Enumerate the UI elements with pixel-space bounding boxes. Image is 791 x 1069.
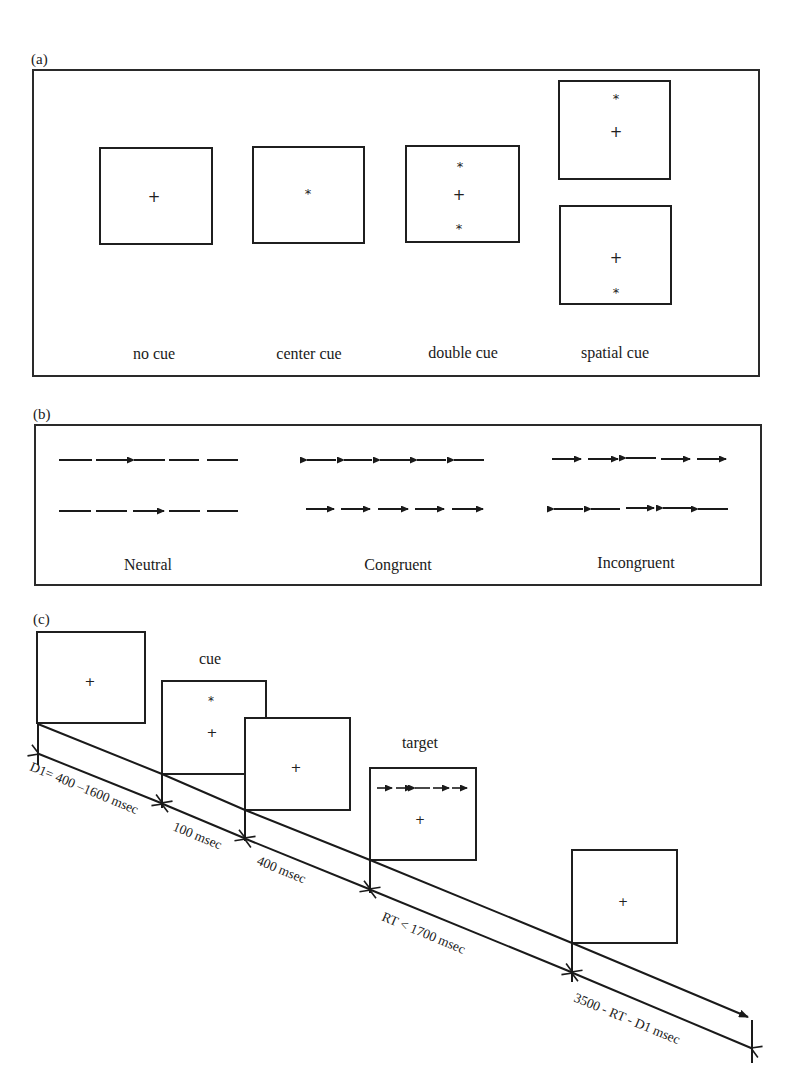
double-cue-condition: * + * double cue — [406, 146, 519, 361]
fixation-cross: + — [148, 188, 161, 206]
panel-b-flanker-conditions: (b) — [33, 406, 761, 585]
spatial-cue-asterisk: * — [613, 285, 620, 300]
panel-c-trial-timeline: (c) + cue * + + target + + — [28, 611, 752, 1063]
center-cue-asterisk: * — [305, 186, 312, 201]
fixation-cross: + — [453, 186, 466, 204]
incongruent-left-row — [552, 458, 726, 459]
cue-stage-label: cue — [199, 650, 221, 667]
duration-cue-label: 100 msec — [171, 819, 224, 853]
duration-rt-label: RT < 1700 msec — [380, 909, 468, 957]
duration-post-cue-label: 400 msec — [255, 853, 308, 887]
incongruent-label: Incongruent — [597, 554, 675, 572]
center-cue-condition: * center cue — [253, 147, 364, 362]
neutral-label: Neutral — [124, 556, 173, 573]
duration-remaining-label: 3500 - RT - D1 msec — [572, 990, 682, 1047]
spatial-cue-asterisk: * — [613, 91, 620, 106]
fixation-cross: + — [618, 895, 628, 909]
spatial-cue-label: spatial cue — [581, 344, 649, 362]
fixation-cross: + — [610, 123, 623, 141]
double-cue-top-asterisk: * — [457, 159, 464, 174]
attention-network-test-figure: (a) + no cue * center cue * + * double c… — [0, 0, 791, 1069]
fixation-cross: + — [415, 813, 425, 827]
incongruent-right-row — [554, 508, 728, 509]
no-cue-label: no cue — [133, 345, 175, 362]
double-cue-label: double cue — [428, 344, 498, 361]
no-cue-condition: + no cue — [100, 148, 212, 362]
cue-asterisk: * — [208, 694, 214, 708]
panel-c-label: (c) — [33, 611, 50, 628]
fixation-cross: + — [610, 249, 623, 267]
panel-b-label: (b) — [33, 406, 51, 423]
spatial-cue-condition: * + + * spatial cue — [559, 81, 671, 362]
panel-a-label: (a) — [31, 51, 48, 68]
fixation-cross: + — [85, 674, 96, 689]
double-cue-bottom-asterisk: * — [456, 221, 463, 236]
congruent-label: Congruent — [364, 556, 432, 574]
center-cue-label: center cue — [276, 345, 341, 362]
target-stage-label: target — [402, 734, 439, 752]
fixation-cross: + — [291, 760, 302, 775]
fixation-cross: + — [207, 725, 218, 740]
panel-a-cue-conditions: (a) + no cue * center cue * + * double c… — [31, 51, 759, 376]
